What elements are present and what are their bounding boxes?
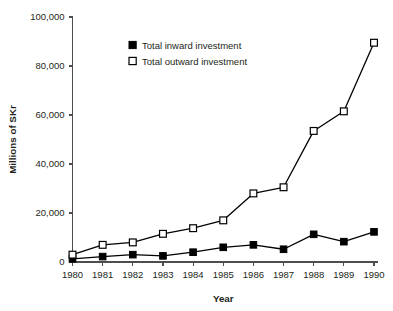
data-point-marker [310,128,317,135]
x-tick-label-7: 1987 [273,269,294,280]
y-tick-label-0: 0 [59,256,64,267]
series-layer [69,39,377,262]
data-point-marker [160,230,167,237]
y-tick-label-4: 80,000 [35,60,64,71]
data-point-marker [280,184,287,191]
y-tick-label-5: 100,000 [30,11,64,22]
line-chart: 020,00040,00060,00080,000100,000 1980198… [0,0,393,311]
data-point-marker [129,239,136,246]
data-point-marker [190,225,197,232]
y-axis-title: Millions of SKr [7,105,18,174]
data-point-marker [371,229,378,236]
data-point-marker [371,39,378,46]
x-axis-title: Year [213,293,234,304]
y-axis-ticks: 020,00040,00060,00080,000100,000 [30,11,72,267]
legend-marker-2 [129,57,136,64]
legend-marker-1 [129,41,136,48]
x-tick-label-3: 1983 [152,269,173,280]
legend-label-1: Total inward investment [142,40,242,51]
data-point-marker [190,249,197,256]
y-tick-label-2: 40,000 [35,158,64,169]
data-point-marker [220,244,227,251]
data-point-marker [99,253,106,260]
series-1 [69,229,377,263]
data-point-marker [130,251,137,258]
chart-figure: 020,00040,00060,00080,000100,000 1980198… [0,0,393,311]
data-point-marker [340,108,347,115]
x-tick-label-5: 1985 [213,269,234,280]
chart-legend: Total inward investmentTotal outward inv… [129,40,247,67]
data-point-marker [250,242,257,249]
series-2 [69,39,377,258]
x-tick-label-0: 1980 [62,269,83,280]
x-tick-label-4: 1984 [183,269,204,280]
y-tick-label-1: 20,000 [35,207,64,218]
legend-label-2: Total outward investment [142,56,247,67]
data-point-marker [280,246,287,253]
data-point-marker [99,241,106,248]
y-tick-label-3: 60,000 [35,109,64,120]
x-tick-label-6: 1986 [243,269,264,280]
data-point-marker [310,231,317,238]
x-tick-label-2: 1982 [122,269,143,280]
data-point-marker [160,253,167,260]
x-tick-label-1: 1981 [92,269,113,280]
data-point-marker [250,190,257,197]
data-point-marker [69,251,76,258]
x-tick-label-9: 1989 [333,269,354,280]
x-axis-ticks: 1980198119821983198419851986198719881989… [62,262,385,280]
data-point-marker [341,238,348,245]
x-tick-label-10: 1990 [363,269,384,280]
data-point-marker [220,217,227,224]
x-tick-label-8: 1988 [303,269,324,280]
